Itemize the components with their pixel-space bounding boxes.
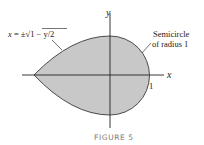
figure-canvas: y x 1 x = ±√1 − y/2 Semicircle of radius… xyxy=(0,0,204,145)
radicand: 1 − y/2 xyxy=(30,29,54,39)
left-label-leader xyxy=(52,40,62,50)
right-label-leader xyxy=(142,43,151,53)
y-axis-label: y xyxy=(105,7,111,18)
semicircle-label-line2: of radius 1 xyxy=(152,39,188,49)
figure-caption: FIGURE 5 xyxy=(94,133,134,142)
left-curve-label: x = ±√1 − y/2 xyxy=(7,29,54,39)
x-axis-label: x xyxy=(166,69,172,80)
semicircle-label-line1: Semicircle xyxy=(153,29,190,39)
tick-label-one: 1 xyxy=(149,81,153,91)
shaded-region xyxy=(34,36,150,115)
